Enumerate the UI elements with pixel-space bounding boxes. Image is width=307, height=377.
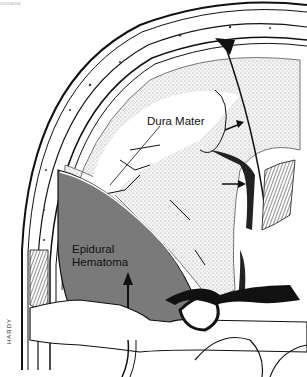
anatomy-drawing bbox=[0, 0, 307, 377]
label-epidural: Epidural bbox=[72, 243, 128, 256]
temporal-muscle bbox=[30, 250, 48, 308]
label-epidural-hematoma: Epidural Hematoma bbox=[72, 243, 128, 269]
caption-fragment: ocesarea bbox=[0, 0, 21, 6]
epidural-hematoma-illustration: ocesarea Dura Mater Epidural Hematoma HA… bbox=[0, 0, 307, 377]
label-hematoma: Hematoma bbox=[72, 256, 128, 269]
artist-signature: HARDY bbox=[6, 318, 12, 344]
label-dura-mater: Dura Mater bbox=[147, 115, 205, 128]
